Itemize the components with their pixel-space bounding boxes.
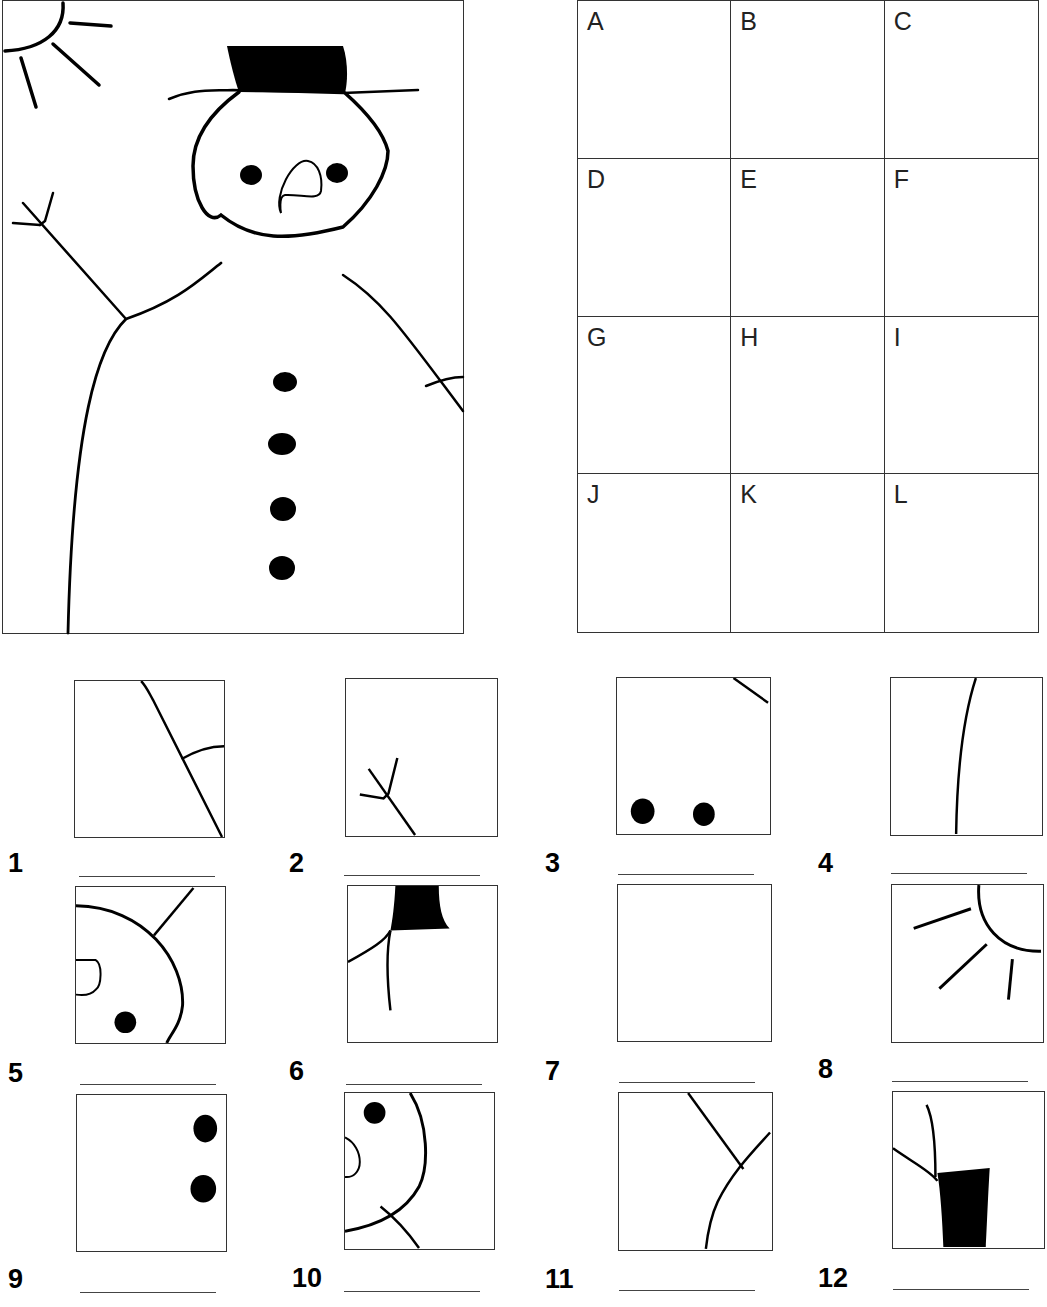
answer-blank-10[interactable] <box>344 1291 480 1292</box>
grid-cell-label: A <box>587 7 604 36</box>
puzzle-piece-11 <box>618 1092 773 1251</box>
face-fragment-icon <box>345 1093 494 1249</box>
grid-cell-e[interactable]: E <box>731 159 884 317</box>
puzzle-piece-3 <box>616 677 771 835</box>
answer-blank-4[interactable] <box>891 873 1027 874</box>
face-fragment-icon <box>76 887 225 1043</box>
answer-blank-9[interactable] <box>80 1292 216 1293</box>
snowman-drawing <box>3 1 465 635</box>
grid-cell-label: C <box>894 7 912 36</box>
answer-blank-11[interactable] <box>619 1290 755 1291</box>
stick-hand-icon <box>346 679 497 836</box>
piece-number: 10 <box>292 1263 322 1294</box>
piece-number: 7 <box>545 1056 560 1087</box>
piece-number: 1 <box>8 848 23 879</box>
sun-icon <box>892 885 1043 1042</box>
body-edge-fragment-icon <box>891 678 1042 835</box>
answer-blank-3[interactable] <box>618 874 754 875</box>
grid-cell-label: E <box>740 165 757 194</box>
answer-blank-5[interactable] <box>80 1084 216 1085</box>
grid-cell-label: J <box>587 480 600 509</box>
blank-piece <box>618 885 771 1041</box>
grid-cell-label: H <box>740 323 758 352</box>
grid-cell-c[interactable]: C <box>885 1 1038 159</box>
grid-cell-g[interactable]: G <box>578 317 731 475</box>
answer-blank-2[interactable] <box>344 875 480 876</box>
grid-cell-label: B <box>740 7 757 36</box>
grid-cell-label: F <box>894 165 909 194</box>
piece-number: 4 <box>818 848 833 879</box>
piece-number: 12 <box>818 1263 848 1294</box>
grid-cell-j[interactable]: J <box>578 474 731 632</box>
piece-number: 3 <box>545 848 560 879</box>
answer-blank-1[interactable] <box>79 876 215 877</box>
puzzle-piece-6 <box>347 885 498 1043</box>
arm-body-fragment-icon <box>75 681 224 837</box>
puzzle-piece-12 <box>892 1091 1045 1249</box>
piece-number: 9 <box>8 1264 23 1295</box>
piece-number: 8 <box>818 1054 833 1085</box>
puzzle-piece-8 <box>891 884 1044 1043</box>
grid-cell-a[interactable]: A <box>578 1 731 159</box>
grid-cell-k[interactable]: K <box>731 474 884 632</box>
hat-brim-fragment-icon <box>348 886 497 1042</box>
answer-blank-12[interactable] <box>893 1289 1029 1290</box>
buttons-fragment-icon <box>617 678 770 834</box>
grid-cell-label: D <box>587 165 605 194</box>
grid-cell-label: K <box>740 480 757 509</box>
puzzle-piece-4 <box>890 677 1043 836</box>
piece-number: 2 <box>289 848 304 879</box>
puzzle-piece-1 <box>74 680 225 838</box>
grid-cell-label: L <box>894 480 908 509</box>
piece-number: 6 <box>289 1056 304 1087</box>
grid-cell-f[interactable]: F <box>885 159 1038 317</box>
puzzle-piece-2 <box>345 678 498 837</box>
letter-grid: A B C D E F G H I J K L <box>577 0 1039 633</box>
top-hat-icon <box>893 1092 1044 1248</box>
puzzle-piece-9 <box>76 1094 227 1252</box>
piece-number: 11 <box>545 1264 574 1295</box>
arm-body-fragment-icon <box>619 1093 772 1250</box>
answer-blank-7[interactable] <box>619 1082 755 1083</box>
answer-blank-6[interactable] <box>346 1084 482 1085</box>
grid-cell-label: G <box>587 323 606 352</box>
grid-cell-i[interactable]: I <box>885 317 1038 475</box>
puzzle-piece-10 <box>344 1092 495 1250</box>
sun-icon <box>5 3 111 107</box>
top-hat-icon <box>227 46 347 93</box>
snowman-picture <box>2 0 464 634</box>
grid-cell-d[interactable]: D <box>578 159 731 317</box>
grid-cell-label: I <box>894 323 901 352</box>
grid-cell-b[interactable]: B <box>731 1 884 159</box>
puzzle-piece-7 <box>617 884 772 1042</box>
grid-cell-l[interactable]: L <box>885 474 1038 632</box>
answer-blank-8[interactable] <box>892 1081 1028 1082</box>
grid-cell-h[interactable]: H <box>731 317 884 475</box>
buttons-fragment-icon <box>77 1095 226 1251</box>
piece-number: 5 <box>8 1058 23 1089</box>
puzzle-piece-5 <box>75 886 226 1044</box>
